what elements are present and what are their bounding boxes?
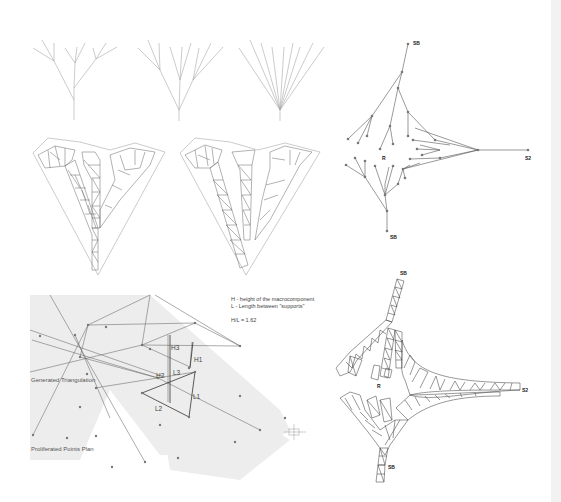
legend-length: L - Length between "supports": [231, 303, 304, 310]
top-support-label: SB: [413, 40, 420, 46]
dimension-h3: H3: [171, 344, 179, 351]
structure-top-support-label: SB: [400, 270, 407, 276]
dimension-l2: L2: [155, 405, 162, 412]
caption-proliferated-points: Proliferated Points Plan: [31, 446, 94, 452]
root-label: R: [382, 155, 386, 161]
dimension-h1: H1: [194, 356, 202, 363]
dimension-l1: L1: [193, 393, 200, 400]
structure-right-support-label: S2: [522, 387, 528, 393]
tree-diagram-3: [239, 40, 324, 121]
legend-ratio: H/L = 1.62: [231, 317, 256, 324]
support-graph-nodes: [345, 43, 530, 233]
tree-diagram-2: [138, 40, 223, 121]
dimension-l3: L3: [173, 369, 180, 376]
diagram-canvas: [0, 0, 561, 502]
dimension-h2: H2: [156, 372, 164, 379]
caption-generated-triangulation: Generated Triangulation: [31, 377, 95, 383]
legend-height: H - height of the macrocomponent: [231, 296, 314, 303]
bottom-support-label: SB: [390, 234, 397, 240]
tree-diagram-1: [33, 40, 117, 120]
structure-root-label: R: [377, 383, 381, 389]
triangulation-diagram-1: [33, 138, 165, 275]
structure-bottom-support-label: SB: [388, 464, 395, 470]
right-support-label: S2: [525, 155, 531, 161]
triangulation-diagram-2: [180, 138, 320, 275]
support-graph: [346, 44, 528, 231]
triangulated-structure: [336, 279, 520, 482]
